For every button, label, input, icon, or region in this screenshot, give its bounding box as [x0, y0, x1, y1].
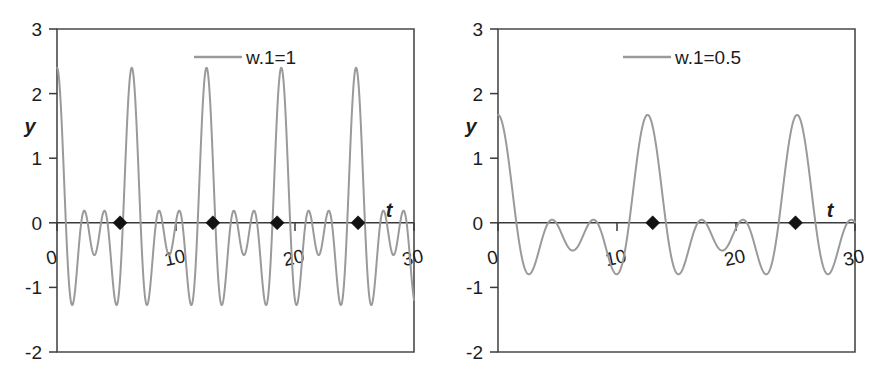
plot-frame [57, 29, 414, 352]
zero-crossing-marker [113, 216, 127, 230]
y-tick-label-1: 1 [472, 148, 483, 169]
chart-svg-right: 3 2 1 0 -1 -2 y 0 10 20 30 t w.1=0.5 [441, 0, 882, 385]
y-tick-label-neg1: -1 [25, 277, 42, 298]
y-axis-title: y [464, 115, 477, 137]
plot-frame [498, 29, 855, 352]
zero-crossing-marker [789, 216, 803, 230]
x-tick-label-30: 30 [841, 245, 866, 270]
legend-label: w.1=0.5 [674, 47, 741, 68]
chart-panel-left: 3 2 1 0 -1 -2 y 0 10 20 30 t [0, 0, 441, 385]
y-tick-label-neg1: -1 [466, 277, 483, 298]
y-tick-label-3: 3 [31, 19, 42, 40]
legend-label: w.1=1 [245, 47, 296, 68]
legend: w.1=1 [194, 47, 296, 68]
chart-svg-left: 3 2 1 0 -1 -2 y 0 10 20 30 t [0, 0, 441, 385]
zero-crossing-marker [206, 216, 220, 230]
chart-panel-right: 3 2 1 0 -1 -2 y 0 10 20 30 t w.1=0.5 [441, 0, 882, 385]
zero-crossing-marker [646, 216, 660, 230]
y-axis-title: y [23, 115, 36, 137]
x-axis-title: t [827, 199, 835, 221]
data-curve [498, 115, 855, 274]
y-tick-label-1: 1 [31, 148, 42, 169]
y-tick-label-2: 2 [472, 84, 483, 105]
figure-container: 3 2 1 0 -1 -2 y 0 10 20 30 t [0, 0, 882, 385]
y-tick-label-3: 3 [472, 19, 483, 40]
zero-crossing-marker [351, 216, 365, 230]
x-tick-label-30: 30 [400, 245, 425, 270]
y-axis-ticks [49, 29, 57, 352]
y-axis-ticks [490, 29, 498, 352]
y-tick-label-2: 2 [31, 84, 42, 105]
y-tick-label-0: 0 [31, 213, 42, 234]
legend: w.1=0.5 [623, 47, 741, 68]
y-tick-label-neg2: -2 [466, 342, 483, 363]
data-curve [57, 68, 414, 305]
y-tick-label-neg2: -2 [25, 342, 42, 363]
y-tick-label-0: 0 [472, 213, 483, 234]
